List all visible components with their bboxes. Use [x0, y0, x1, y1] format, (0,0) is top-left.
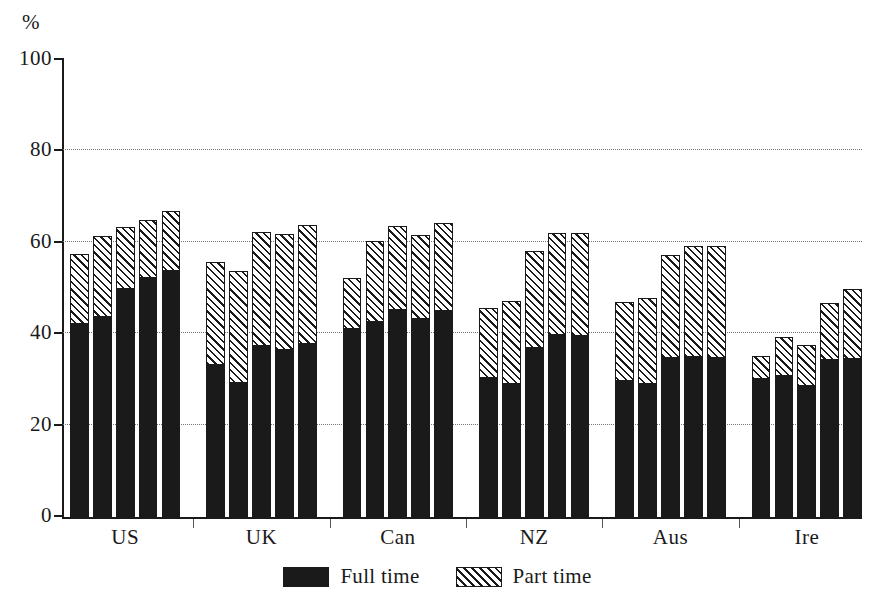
bar-segment-full-time [548, 334, 567, 519]
y-axis-tick-label-100: 100 [4, 48, 52, 69]
y-axis-unit-label: % [22, 12, 40, 33]
y-axis-tick-mark-40 [54, 332, 63, 334]
gridline-20 [63, 424, 862, 425]
gridline-40 [63, 332, 862, 333]
bar-us-2[interactable] [93, 236, 112, 519]
bar-segment-full-time [206, 364, 225, 519]
gridline-80 [63, 149, 862, 150]
bar-segment-full-time [775, 375, 794, 519]
x-axis-tick-mark-5 [739, 519, 740, 528]
bar-segment-full-time [411, 318, 430, 519]
bar-can-1[interactable] [343, 278, 362, 519]
bar-nz-5[interactable] [571, 233, 590, 519]
bar-segment-full-time [275, 349, 294, 519]
bar-uk-2[interactable] [229, 271, 248, 519]
bar-ire-5[interactable] [843, 289, 862, 519]
y-axis-tick-mark-80 [54, 149, 63, 151]
bar-segment-full-time [479, 377, 498, 519]
bar-aus-5[interactable] [707, 246, 726, 519]
bar-segment-full-time [434, 310, 453, 519]
legend-swatch-full-time-icon [283, 567, 329, 587]
plot-area [62, 58, 862, 521]
bar-segment-full-time [797, 385, 816, 519]
y-axis-tick-mark-20 [54, 424, 63, 426]
bar-segment-full-time [116, 288, 135, 519]
bar-ire-1[interactable] [752, 356, 771, 519]
bar-segment-full-time [707, 357, 726, 519]
legend-label-part-time: Part time [513, 566, 592, 587]
bar-can-3[interactable] [388, 226, 407, 519]
bar-us-3[interactable] [116, 227, 135, 519]
bar-ire-2[interactable] [775, 337, 794, 519]
legend-swatch-part-time-icon [456, 567, 502, 587]
bar-segment-full-time [343, 328, 362, 519]
bar-uk-1[interactable] [206, 262, 225, 519]
bar-segment-full-time [752, 378, 771, 519]
bar-aus-3[interactable] [661, 255, 680, 519]
bar-segment-full-time [93, 316, 112, 519]
bar-segment-full-time [525, 347, 544, 519]
bar-ire-4[interactable] [820, 303, 839, 519]
bar-segment-full-time [571, 335, 590, 519]
y-axis-tick-mark-100 [54, 58, 63, 60]
x-axis-tick-mark-3 [466, 519, 467, 528]
bar-segment-full-time [502, 383, 521, 519]
x-axis-label-nz: NZ [479, 527, 589, 548]
y-axis-tick-label-20: 20 [4, 414, 52, 435]
bar-segment-full-time [615, 380, 634, 519]
chart-legend: Full time Part time [0, 566, 875, 587]
y-axis-tick-label-60: 60 [4, 231, 52, 252]
bar-nz-1[interactable] [479, 308, 498, 519]
bar-segment-full-time [388, 309, 407, 519]
x-axis-label-can: Can [343, 527, 453, 548]
bar-can-5[interactable] [434, 223, 453, 519]
x-axis-tick-mark-1 [193, 519, 194, 528]
gridline-60 [63, 241, 862, 242]
bar-nz-2[interactable] [502, 301, 521, 519]
bar-nz-4[interactable] [548, 233, 567, 519]
bar-us-1[interactable] [70, 254, 89, 519]
bar-uk-5[interactable] [298, 225, 317, 519]
x-axis-label-ire: Ire [752, 527, 862, 548]
legend-item-part-time[interactable]: Part time [456, 566, 592, 587]
x-axis-label-uk: UK [206, 527, 316, 548]
y-axis-tick-mark-0 [54, 515, 63, 517]
x-axis-tick-mark-2 [330, 519, 331, 528]
y-axis-tick-label-40: 40 [4, 322, 52, 343]
bar-aus-2[interactable] [638, 298, 657, 519]
bar-uk-4[interactable] [275, 234, 294, 519]
bar-nz-3[interactable] [525, 251, 544, 519]
bar-can-4[interactable] [411, 235, 430, 519]
bar-aus-1[interactable] [615, 302, 634, 519]
x-axis-line [62, 517, 862, 519]
legend-item-full-time[interactable]: Full time [283, 566, 419, 587]
legend-label-full-time: Full time [340, 566, 419, 587]
x-axis-label-aus: Aus [615, 527, 725, 548]
x-axis-tick-mark-4 [602, 519, 603, 528]
x-axis-label-us: US [70, 527, 180, 548]
bar-segment-full-time [252, 345, 271, 519]
bar-ire-3[interactable] [797, 345, 816, 519]
bar-segment-full-time [229, 382, 248, 519]
bar-segment-full-time [70, 323, 89, 520]
bar-segment-full-time [139, 277, 158, 519]
bar-segment-full-time [162, 270, 181, 519]
y-axis-tick-label-0: 0 [4, 505, 52, 526]
bar-segment-full-time [661, 357, 680, 519]
bar-us-5[interactable] [162, 211, 181, 519]
bar-segment-full-time [298, 343, 317, 519]
y-axis-tick-label-80: 80 [4, 139, 52, 160]
bar-segment-full-time [843, 358, 862, 519]
bar-segment-full-time [820, 359, 839, 519]
bar-uk-3[interactable] [252, 232, 271, 519]
chart-container: % 020406080100 USUKCanNZAusIre Full time… [0, 0, 875, 614]
bar-can-2[interactable] [366, 241, 385, 519]
bar-segment-full-time [684, 356, 703, 519]
y-axis-line [62, 58, 64, 519]
y-axis-tick-mark-60 [54, 241, 63, 243]
bar-segment-full-time [638, 383, 657, 519]
bar-us-4[interactable] [139, 220, 158, 519]
bar-segment-full-time [366, 321, 385, 519]
bar-aus-4[interactable] [684, 246, 703, 519]
